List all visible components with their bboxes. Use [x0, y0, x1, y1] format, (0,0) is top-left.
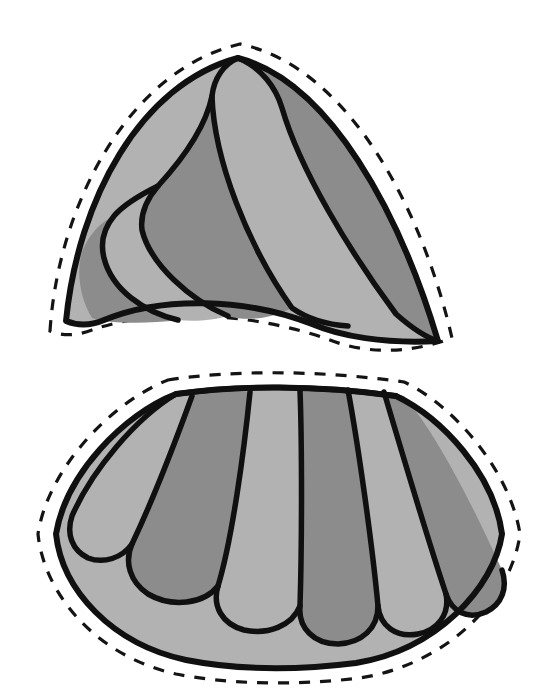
lower-piece — [38, 373, 520, 683]
upper-piece — [50, 44, 452, 350]
pattern-canvas — [0, 0, 560, 691]
pattern-illustration — [0, 0, 560, 691]
